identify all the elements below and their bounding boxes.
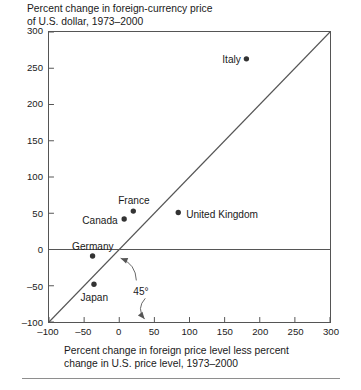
point-label: Italy [222,54,241,65]
y-tick-label: 50 [3,209,43,219]
point-label: Canada [82,215,117,226]
point-label: United Kingdom [186,208,258,219]
point-label: Japan [81,292,109,303]
y-axis-tick-labels: –100–50050100150200250300 [0,31,43,323]
x-tick-label: 300 [308,326,354,337]
footer-divider [22,378,340,379]
y-tick-label: 300 [3,26,43,36]
scatter-plot-figure: Percent change in foreign-currency price… [0,0,361,390]
y-tick-label: 250 [3,63,43,73]
x-axis-caption: Percent change in foreign price level le… [64,345,339,370]
y-tick-label: 150 [3,136,43,146]
plot-area: ItalyUnited KingdomFranceCanadaGermanyJa… [48,31,331,323]
point-label-overlay: ItalyUnited KingdomFranceCanadaGermanyJa… [49,32,330,322]
y-tick-label: –50 [3,282,43,292]
angle-annotation-label: 45° [133,286,148,297]
y-tick-label: 0 [3,245,43,255]
chart-title: Percent change in foreign-currency price… [27,3,347,28]
point-label: Germany [72,241,114,252]
y-tick-label: 100 [3,172,43,182]
x-axis-tick-labels: –100–50050100150200250300 [48,326,331,342]
y-tick-label: 200 [3,99,43,109]
point-label: France [118,195,149,206]
